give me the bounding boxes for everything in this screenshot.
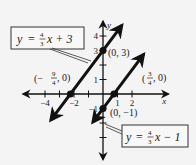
eq1-y: y: [16, 32, 23, 46]
data-point: [110, 91, 117, 98]
eq2-y: y: [125, 130, 132, 144]
point-label-0-3: (0, 3): [108, 47, 130, 59]
eq1-rest: x + 3: [46, 32, 72, 46]
p34-num: 3: [148, 70, 152, 78]
m94-rest: , 0): [57, 72, 70, 84]
graph: x y −4−212431−1 y = 4 3 x + 3 y = 4 3 x …: [0, 0, 196, 165]
eq2-rest: x − 1: [154, 130, 180, 144]
m94-den: 4: [52, 79, 56, 87]
m94-num: 9: [52, 70, 56, 78]
y-tick-label: 1: [94, 75, 99, 85]
x-tick-label: −4: [40, 98, 50, 108]
equation-label-1: y = 4 3 x + 3: [11, 27, 84, 49]
y-tick-label: 4: [94, 31, 99, 41]
eq1-leader-line-b: [52, 48, 91, 61]
point-label-3-4-0: ( 3 4 , 0): [142, 70, 166, 87]
p34-lparen: (: [142, 73, 146, 85]
eq2-equals: =: [136, 130, 143, 144]
y-tick-label: −1: [88, 104, 98, 114]
point-label-neg9-4-0: (− 9 4 , 0): [34, 70, 70, 87]
m94-lparen: (−: [34, 73, 43, 85]
data-point: [67, 91, 74, 98]
x-axis-label: x: [161, 96, 166, 106]
p34-rest: , 0): [153, 72, 166, 84]
eq1-num: 4: [40, 31, 44, 39]
y-tick-label: 3: [94, 46, 99, 56]
data-point: [100, 105, 107, 112]
eq2-num: 4: [148, 129, 152, 137]
eq1-equals: =: [28, 32, 35, 46]
y-axis-label: y: [106, 20, 111, 30]
eq1-den: 3: [40, 40, 44, 48]
data-point: [100, 47, 107, 54]
eq2-den: 3: [148, 138, 152, 146]
eq1-leader-line-a: [50, 49, 88, 63]
point-label-0-neg1: (0, −1): [110, 107, 137, 119]
p34-den: 4: [148, 79, 152, 87]
x-tick-label: −2: [69, 98, 79, 108]
equation-label-2: y = 4 3 x − 1: [122, 125, 188, 147]
